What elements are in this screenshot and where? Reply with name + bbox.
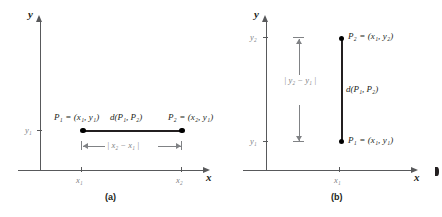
panel-a-measure-arrow-right-icon xyxy=(176,143,181,149)
panel-b-y-axis-arrow-icon xyxy=(262,15,268,22)
panel-b-point-p1 xyxy=(339,139,344,144)
panel-a-y-axis-arrow-icon xyxy=(36,15,42,22)
panel-b-y-axis xyxy=(266,22,267,170)
panel-b-y-axis-label: y xyxy=(254,8,259,20)
panel-a-distance-segment xyxy=(83,130,182,132)
panel-a-point-p2 xyxy=(179,128,184,133)
panel-a-measure-arrow-left-icon xyxy=(83,143,88,149)
panel-b-tick-label-y2: y₂ xyxy=(250,32,257,42)
panel-b-label-p1: P₁ = (x₁, y₁) xyxy=(348,135,393,145)
panel-a-y-axis-label: y xyxy=(28,8,33,20)
panel-b-x-axis xyxy=(243,170,411,171)
distance-formula-figure: y x x₁ x₂ y₁ P₁ = (x₁, y₁) P₂ = (x₂, y₁)… xyxy=(0,0,442,217)
panel-a-distance-label: d(P₁, P₂) xyxy=(110,112,142,122)
panel-b-measure-line-top xyxy=(299,39,300,75)
panel-b-point-p2 xyxy=(339,36,344,41)
panel-a-tick-x1 xyxy=(81,167,82,172)
panel-b-measure-arrow-up-icon xyxy=(296,39,302,44)
panel-b-tick-x1 xyxy=(339,167,340,172)
panel-a-x-axis xyxy=(18,170,203,171)
panel-a-x-axis-label: x xyxy=(206,171,212,183)
panel-a-label-p1: P₁ = (x₁, y₁) xyxy=(54,112,99,122)
panel-a-measure-label: | x₂ − x₁ | xyxy=(107,140,139,150)
panel-b-measure-cap-top xyxy=(293,37,304,38)
panel-b-measure-label: | y₂ − y₁ | xyxy=(284,75,316,85)
panel-a-tick-label-y1: y₁ xyxy=(25,125,32,135)
panel-a-measure-cap-left xyxy=(81,141,82,150)
panel-a-point-p1 xyxy=(80,128,85,133)
panel-b-measure-cap-bottom xyxy=(293,141,304,142)
panel-a-tick-label-x2: x₂ xyxy=(176,175,183,185)
panel-b-tick-y2 xyxy=(263,37,268,38)
panel-b-tick-label-x1: x₁ xyxy=(334,175,341,185)
panel-a-tick-x2 xyxy=(181,167,182,172)
panel-b-x-axis-label: x xyxy=(414,171,420,183)
panel-b-measure-arrow-down-icon xyxy=(296,136,302,141)
page-edge-marker xyxy=(435,167,439,176)
panel-a-label-p2: P₂ = (x₂, y₁) xyxy=(168,112,213,122)
panel-b-caption: (b) xyxy=(331,192,343,202)
panel-b-tick-y1 xyxy=(263,141,268,142)
panel-a: y x x₁ x₂ y₁ P₁ = (x₁, y₁) P₂ = (x₂, y₁)… xyxy=(0,0,221,217)
panel-b-distance-segment xyxy=(341,39,343,142)
panel-b: y x x₁ y₂ y₁ P₂ = (x₁, y₂) P₁ = (x₁, y₁)… xyxy=(221,0,442,217)
panel-b-label-p2: P₂ = (x₁, y₂) xyxy=(348,31,393,41)
panel-b-tick-label-y1: y₁ xyxy=(250,136,257,146)
panel-a-measure-cap-right xyxy=(181,141,182,150)
panel-b-distance-label: d(P₁, P₂) xyxy=(346,84,378,94)
panel-a-tick-label-x1: x₁ xyxy=(76,175,83,185)
panel-a-y-axis xyxy=(40,22,41,170)
panel-a-tick-y1 xyxy=(37,130,42,131)
panel-a-caption: (a) xyxy=(105,192,116,202)
